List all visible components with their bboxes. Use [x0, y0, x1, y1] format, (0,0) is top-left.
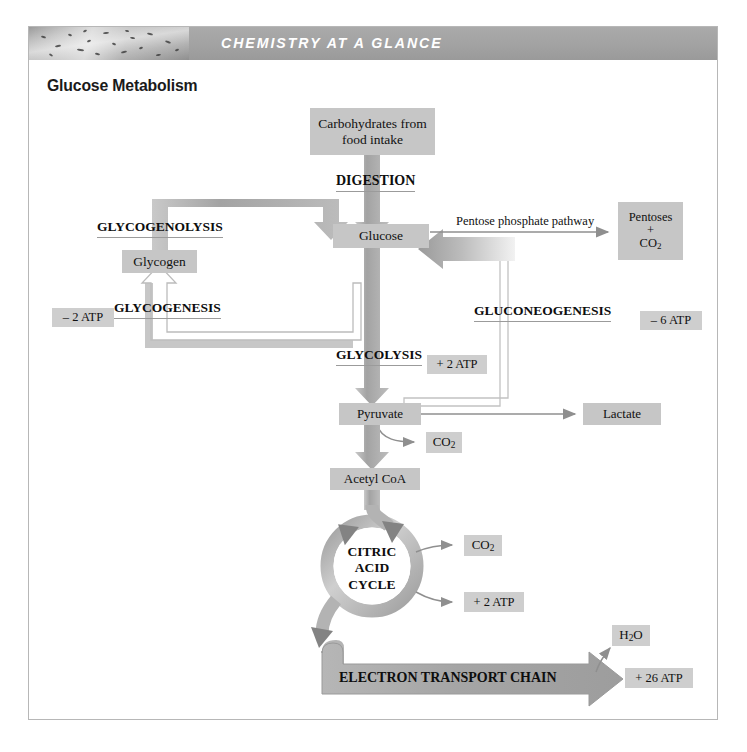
- citric-line-3: CYCLE: [332, 577, 412, 593]
- pentoses-line-1: Pentoses: [629, 211, 673, 224]
- label-glycogenesis: GLYCOGENESIS: [114, 300, 221, 319]
- label-gluconeogenesis: GLUCONEOGENESIS: [474, 303, 611, 322]
- tag-cycle-atp: + 2 ATP: [464, 592, 524, 612]
- lactate-label: Lactate: [603, 407, 641, 422]
- tag-etc-atp: + 26 ATP: [625, 668, 693, 688]
- glycolysis-atp-value: + 2 ATP: [436, 357, 477, 371]
- node-carbohydrates: Carbohydrates from food intake: [310, 108, 435, 155]
- co2-pyruvate-label: CO2: [433, 435, 456, 451]
- tag-glycolysis-atp: + 2 ATP: [427, 355, 487, 374]
- acetyl-coa-label: Acetyl CoA: [344, 472, 406, 487]
- glucose-label: Glucose: [359, 228, 403, 244]
- carbohydrates-line-1: Carbohydrates from: [318, 116, 426, 132]
- gluconeogenesis-atp-value: – 6 ATP: [651, 313, 691, 327]
- h2o-label: H2O: [619, 628, 642, 644]
- node-glycogen: Glycogen: [122, 250, 197, 273]
- label-electron-transport-chain: ELECTRON TRANSPORT CHAIN: [339, 670, 557, 686]
- tag-glycogenesis-atp: – 2 ATP: [52, 308, 114, 327]
- etc-atp-value: + 26 ATP: [635, 671, 682, 685]
- label-pentose-phosphate-pathway: Pentose phosphate pathway: [456, 214, 594, 229]
- node-h2o: H2O: [612, 625, 650, 646]
- page-root: CHEMISTRY AT A GLANCE Glucose Metabolism: [0, 0, 747, 752]
- citric-line-1: CITRIC: [332, 544, 412, 560]
- node-acetyl-coa: Acetyl CoA: [330, 468, 420, 490]
- label-glycolysis: GLYCOLYSIS: [336, 347, 422, 366]
- pentoses-line-3: CO2: [640, 237, 662, 251]
- node-co2-cycle: CO2: [464, 535, 502, 556]
- arrow-cycle-atp: [416, 592, 452, 602]
- glucose-metabolism-diagram: Carbohydrates from food intake DIGESTION…: [0, 0, 747, 752]
- node-lactate: Lactate: [583, 403, 661, 425]
- node-pyruvate: Pyruvate: [339, 403, 421, 425]
- glycogen-label: Glycogen: [133, 254, 185, 270]
- glycogenesis-atp-value: – 2 ATP: [63, 310, 103, 324]
- tag-gluconeogenesis-atp: – 6 ATP: [640, 311, 702, 330]
- arrow-pyruvate-co2: [377, 425, 414, 442]
- arrow-pyruvate-acetylcoa: [355, 424, 389, 470]
- arrow-cycle-co2: [416, 545, 452, 552]
- node-glucose: Glucose: [333, 224, 429, 248]
- label-glycogenolysis: GLYCOGENOLYSIS: [97, 219, 223, 238]
- label-citric-acid-cycle: CITRIC ACID CYCLE: [332, 544, 412, 593]
- co2-cycle-label: CO2: [472, 538, 495, 554]
- label-digestion: DIGESTION: [336, 173, 415, 192]
- node-pentoses-co2: Pentoses + CO2: [618, 202, 683, 260]
- cycle-atp-value: + 2 ATP: [473, 595, 514, 609]
- carbohydrates-line-2: food intake: [342, 132, 403, 148]
- citric-line-2: ACID: [332, 560, 412, 576]
- node-co2-pyruvate: CO2: [426, 432, 462, 453]
- pyruvate-label: Pyruvate: [357, 407, 403, 422]
